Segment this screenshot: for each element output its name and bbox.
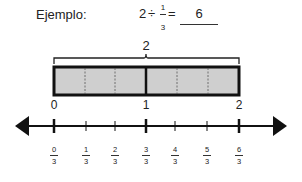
brace-icon bbox=[54, 54, 239, 64]
diagram-graphic bbox=[0, 0, 302, 182]
tick-label-6-3: 63 bbox=[234, 145, 244, 166]
right-arrow-icon bbox=[273, 116, 287, 136]
tick-label-5-3: 53 bbox=[202, 145, 212, 166]
whole-label-2: 2 bbox=[231, 98, 247, 112]
tick-label-3-3: 33 bbox=[141, 145, 151, 166]
whole-label-1: 1 bbox=[138, 98, 154, 112]
tick-label-2-3: 23 bbox=[110, 145, 120, 166]
tick-label-1-3: 13 bbox=[81, 145, 91, 166]
whole-label-0: 0 bbox=[46, 98, 62, 112]
brace-label: 2 bbox=[138, 38, 154, 53]
tick-label-0-3: 03 bbox=[49, 145, 59, 166]
left-arrow-icon bbox=[15, 116, 29, 136]
tick-label-4-3: 43 bbox=[170, 145, 180, 166]
